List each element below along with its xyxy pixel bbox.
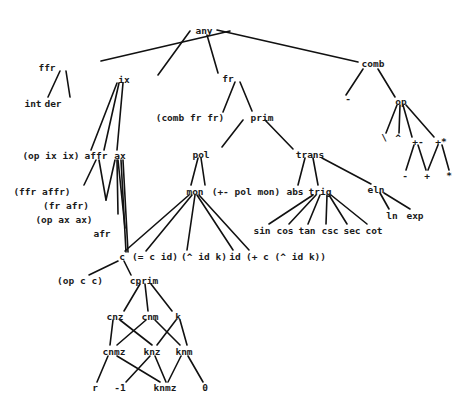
node-cos: cos bbox=[276, 225, 293, 236]
tree-edge bbox=[145, 284, 148, 311]
tree-edge bbox=[91, 83, 117, 150]
tree-edge bbox=[168, 356, 181, 382]
node-afr: afr bbox=[93, 228, 110, 239]
node-knz: knz bbox=[143, 346, 160, 357]
tree-edge bbox=[265, 120, 293, 149]
node-affr: affr bbox=[85, 150, 108, 161]
node-cot: cot bbox=[365, 225, 382, 236]
node-pluscaret: (+ c (^ id k)) bbox=[246, 251, 326, 262]
node-ln: ln bbox=[386, 210, 397, 221]
node-abs: abs bbox=[286, 186, 303, 197]
tree-edge bbox=[120, 320, 152, 345]
tree-edge bbox=[66, 71, 70, 97]
tree-edge bbox=[329, 195, 347, 224]
node-cprim: cprim bbox=[130, 275, 159, 286]
node-comb: comb bbox=[362, 58, 385, 69]
tree-edge bbox=[406, 145, 414, 170]
tree-edge bbox=[125, 195, 189, 251]
node-id: id bbox=[229, 251, 240, 262]
tree-edge bbox=[104, 83, 119, 150]
node-opaxax: (op ax ax) bbox=[35, 214, 92, 225]
tree-edge bbox=[106, 160, 115, 200]
tree-edge bbox=[313, 158, 318, 185]
tree-edge bbox=[289, 195, 316, 224]
node-op: op bbox=[395, 96, 406, 107]
tree-edge bbox=[428, 145, 438, 170]
tree-edge bbox=[188, 356, 203, 382]
tree-edge bbox=[222, 120, 243, 147]
tree-edge bbox=[207, 35, 218, 73]
node-r: r bbox=[92, 382, 98, 393]
tree-edge bbox=[89, 261, 118, 275]
node-ax: ax bbox=[114, 150, 125, 161]
node-cnz: cnz bbox=[106, 311, 123, 322]
node-backslash: \ bbox=[381, 132, 387, 143]
tree-edge bbox=[146, 195, 192, 251]
tree-edge bbox=[117, 320, 146, 345]
node-ffr: ffr bbox=[38, 62, 55, 73]
tree-edge bbox=[223, 82, 235, 112]
tree-edge bbox=[126, 356, 150, 382]
node-star: * bbox=[446, 170, 452, 181]
tree-edge bbox=[269, 195, 313, 224]
tree-edge bbox=[217, 30, 358, 62]
node-ffraffr: (ffr affr) bbox=[13, 186, 70, 197]
node-plusminus: +- bbox=[412, 136, 423, 147]
tree-edge bbox=[124, 284, 140, 311]
node-any: any bbox=[195, 25, 212, 36]
tree-edge bbox=[298, 158, 305, 185]
tree-edge bbox=[442, 145, 449, 170]
tree-edge bbox=[117, 160, 118, 214]
node-frafr: (fr afr) bbox=[43, 200, 89, 211]
node-csc: csc bbox=[321, 225, 338, 236]
tree-edge bbox=[378, 69, 395, 97]
tree-edge bbox=[180, 320, 187, 345]
node-der: der bbox=[44, 98, 61, 109]
node-opixix: (op ix ix) bbox=[22, 150, 79, 161]
node-opcc: (op c c) bbox=[57, 275, 103, 286]
node-plusstar: +* bbox=[435, 136, 446, 147]
tree-edge bbox=[197, 195, 233, 250]
tree-edge bbox=[199, 195, 249, 250]
tree-edge bbox=[97, 356, 108, 382]
node-c: c bbox=[119, 251, 125, 262]
node-eln: eln bbox=[367, 184, 384, 195]
tree-edge bbox=[110, 320, 113, 345]
tree-edge bbox=[84, 160, 96, 185]
tree-edge bbox=[187, 195, 195, 250]
tree-edge bbox=[99, 160, 106, 200]
tree-edge bbox=[386, 105, 397, 133]
node-eqcid: (= c id) bbox=[132, 251, 178, 262]
node-k: k bbox=[175, 311, 181, 322]
node-fr: fr bbox=[222, 73, 233, 84]
node-exp: exp bbox=[406, 210, 423, 221]
node-mon: mon bbox=[186, 186, 203, 197]
tree-edge bbox=[155, 356, 166, 382]
node-prim: prim bbox=[251, 112, 274, 123]
node-caretidk: (^ id k) bbox=[181, 251, 227, 262]
node-cnm: cnm bbox=[141, 311, 158, 322]
tree-edge bbox=[191, 158, 198, 185]
tree-edge bbox=[331, 195, 367, 224]
node-pmpolmon: (+- pol mon) bbox=[212, 186, 281, 197]
tree-edge bbox=[151, 284, 172, 311]
node-plus: + bbox=[424, 170, 430, 181]
node-caret: ^ bbox=[395, 132, 401, 143]
node-tan: tan bbox=[298, 225, 315, 236]
node-trig: trig bbox=[309, 186, 332, 197]
tree-edge bbox=[158, 31, 190, 75]
node-knm: knm bbox=[175, 346, 192, 357]
tree-edge bbox=[240, 82, 252, 111]
tree-edge bbox=[326, 195, 327, 224]
node-pol: pol bbox=[192, 149, 209, 160]
tree-edge bbox=[322, 158, 371, 184]
node-int: int bbox=[24, 98, 41, 109]
tree-edge bbox=[201, 158, 205, 185]
tree-edge bbox=[346, 69, 363, 95]
node-minus1: - bbox=[345, 93, 351, 104]
node-neg1: -1 bbox=[114, 382, 125, 393]
type-hierarchy-diagram: anyffrintderixfr(comb fr fr)primcomb-op\… bbox=[0, 0, 474, 416]
node-combfrfr: (comb fr fr) bbox=[156, 112, 225, 123]
tree-edge bbox=[124, 261, 131, 275]
node-trans: trans bbox=[296, 149, 325, 160]
